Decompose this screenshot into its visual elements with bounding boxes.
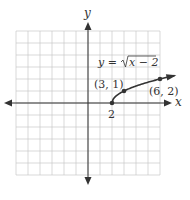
equation-lhs: y =: [97, 56, 117, 69]
curve-arrow-icon: [166, 74, 176, 80]
point-label-3-1: (3, 1): [94, 78, 124, 91]
axes: [4, 22, 172, 185]
equation-radicand: x − 2: [129, 56, 158, 69]
y-axis-bottom-arrow-icon: [85, 177, 92, 185]
point-label-2: 2: [108, 108, 115, 121]
svg-text:y =: y =: [97, 56, 117, 69]
x-axis-right-arrow-icon: [164, 100, 172, 107]
data-point: [158, 77, 163, 82]
x-axis-left-arrow-icon: [4, 100, 12, 107]
point-label-6-2: (6, 2): [149, 85, 179, 98]
y-axis-top-arrow-icon: [85, 22, 92, 30]
graph: x y y = x − 2 (3, 1) (6, 2) 2: [0, 0, 190, 200]
y-axis-label: y: [83, 6, 91, 20]
data-point: [110, 101, 115, 106]
